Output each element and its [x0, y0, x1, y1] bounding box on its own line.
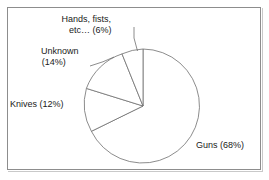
- pie-label-hands-line2: etc… (6%): [61, 25, 112, 36]
- pie-label-hands: Hands, fists, etc… (6%): [61, 14, 112, 36]
- pie-label-unknown: Unknown (14%): [41, 46, 79, 68]
- pie-label-knives-text: Knives (12%): [10, 99, 64, 110]
- pie-label-guns-text: Guns (68%): [196, 140, 244, 151]
- pie-label-unknown-line2: (14%): [41, 57, 79, 68]
- pie-chart-figure: Hands, fists, etc… (6%) Unknown (14%) Kn…: [0, 0, 269, 180]
- pie-label-unknown-line1: Unknown: [41, 46, 79, 57]
- pie-label-hands-line1: Hands, fists,: [61, 14, 112, 25]
- pie-label-knives: Knives (12%): [10, 99, 64, 110]
- pie-label-guns: Guns (68%): [196, 140, 244, 151]
- leader-line-hands: [134, 27, 138, 51]
- pie-chart-graphic: [0, 0, 269, 180]
